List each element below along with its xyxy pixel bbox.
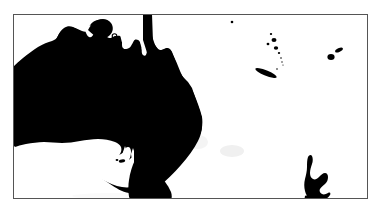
vanuatu-island-2-shape (267, 43, 270, 45)
kangaroo-island-dot-shape (116, 159, 119, 161)
vanuatu-island-4-shape (274, 46, 278, 50)
fiji-viti-levu-shape (327, 54, 334, 60)
vanuatu-island-8-shape (282, 64, 283, 65)
loyalty-islands-dot-shape (276, 68, 278, 70)
vanuatu-island-7-shape (281, 61, 282, 62)
vanuatu-island-6-shape (280, 57, 282, 59)
map-figure: Australia and Southwest Pacific landmass… (0, 0, 379, 210)
vanuatu-island-5-shape (278, 52, 280, 54)
tasman-smudge-artifact (220, 145, 244, 157)
vanuatu-island-1-shape (272, 38, 277, 42)
map-canvas (0, 0, 379, 210)
vanuatu-island-3-shape (270, 33, 272, 35)
solomon-outlier-dot-shape (231, 21, 234, 24)
